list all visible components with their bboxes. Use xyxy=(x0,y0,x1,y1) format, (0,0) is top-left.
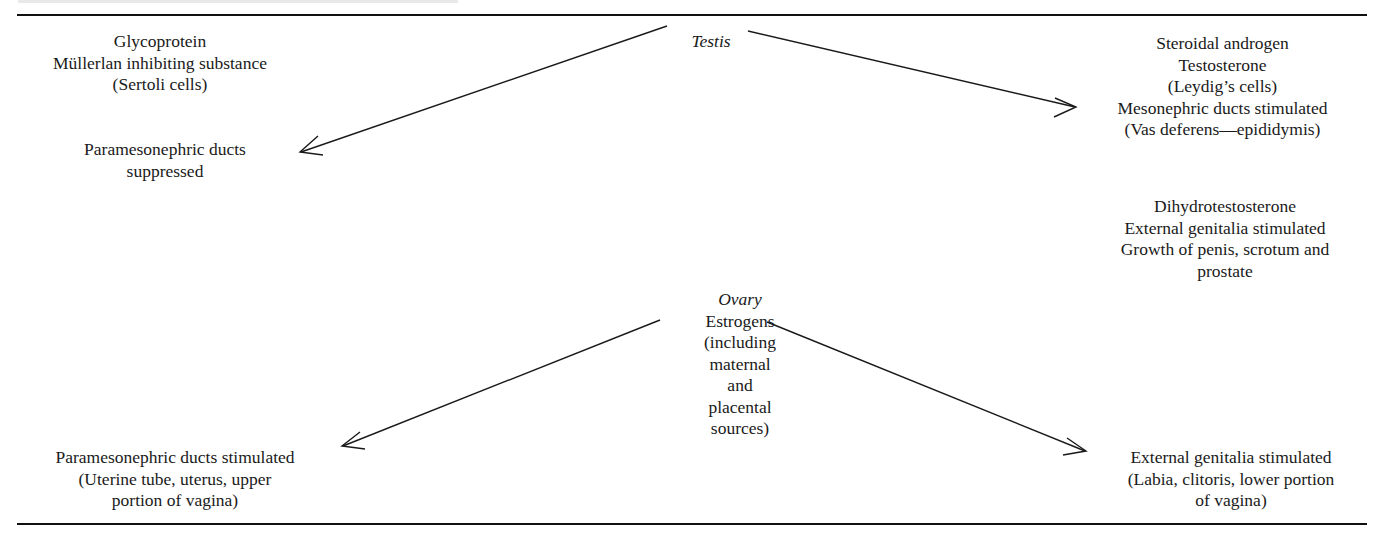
glycoprotein-line-1: Glycoprotein xyxy=(30,31,290,53)
pm-stim-line-2: (Uterine tube, uterus, upper xyxy=(10,469,340,491)
dht-line-4: prostate xyxy=(1080,261,1370,283)
external-genitalia-female-node: External genitalia stimulated (Labia, cl… xyxy=(1092,447,1370,512)
top-rule xyxy=(17,14,1367,16)
dht-line-1: Dihydrotestosterone xyxy=(1080,196,1370,218)
paramesonephric-stimulated-node: Paramesonephric ducts stimulated (Uterin… xyxy=(10,447,340,512)
ext-stim-line-1: External genitalia stimulated xyxy=(1092,447,1370,469)
pm-stim-line-3: portion of vagina) xyxy=(10,490,340,512)
glycoprotein-line-3: (Sertoli cells) xyxy=(30,74,290,96)
ovary-line-1: Estrogens xyxy=(700,311,780,333)
paramesonephric-suppressed-node: Paramesonephric ducts suppressed xyxy=(40,139,290,182)
ovary-line-6: sources) xyxy=(700,418,780,440)
ext-stim-line-3: of vagina) xyxy=(1092,490,1370,512)
steroid-line-5: (Vas deferens—epididymis) xyxy=(1080,119,1365,141)
ovary-line-3: maternal xyxy=(700,354,780,376)
testis-label: Testis xyxy=(676,31,746,53)
testis-node: Testis xyxy=(676,31,746,53)
pm-suppressed-line-1: Paramesonephric ducts xyxy=(40,139,290,161)
glycoprotein-node: Glycoprotein Müllerlan inhibiting substa… xyxy=(30,31,290,96)
pm-stim-line-1: Paramesonephric ducts stimulated xyxy=(10,447,340,469)
ovary-line-5: placental xyxy=(700,397,780,419)
steroid-line-1: Steroidal androgen xyxy=(1080,33,1365,55)
steroid-line-2: Testosterone xyxy=(1080,55,1365,77)
cropped-caption-fragment xyxy=(18,0,458,3)
bottom-rule xyxy=(17,523,1367,525)
glycoprotein-line-2: Müllerlan inhibiting substance xyxy=(30,53,290,75)
pm-suppressed-line-2: suppressed xyxy=(40,161,290,183)
arrow-testis-to-paramesonephric-suppressed xyxy=(300,26,667,155)
ovary-label: Ovary xyxy=(700,289,780,311)
arrow-ovary-to-paramesonephric-stimulated xyxy=(342,320,660,449)
steroid-line-4: Mesonephric ducts stimulated xyxy=(1080,98,1365,120)
dihydrotestosterone-node: Dihydrotestosterone External genitalia s… xyxy=(1080,196,1370,282)
dht-line-3: Growth of penis, scrotum and xyxy=(1080,239,1370,261)
ext-stim-line-2: (Labia, clitoris, lower portion xyxy=(1092,469,1370,491)
ovary-line-4: and xyxy=(700,375,780,397)
dht-line-2: External genitalia stimulated xyxy=(1080,218,1370,240)
arrow-testis-to-steroidal-androgen xyxy=(748,31,1076,117)
ovary-node: Ovary Estrogens (including maternal and … xyxy=(700,289,780,440)
steroid-line-3: (Leydig’s cells) xyxy=(1080,76,1365,98)
ovary-line-2: (including xyxy=(700,332,780,354)
arrow-ovary-to-external-genitalia xyxy=(767,322,1086,455)
steroidal-androgen-node: Steroidal androgen Testosterone (Leydig’… xyxy=(1080,33,1365,141)
